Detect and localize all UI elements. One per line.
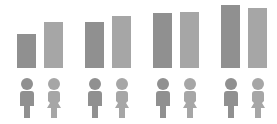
female-person-icon — [180, 78, 200, 118]
bar-male-4 — [221, 5, 240, 68]
male-person-icon — [17, 78, 37, 118]
female-person-icon — [44, 78, 64, 118]
bar-male-2 — [85, 22, 104, 68]
bar-female-1 — [44, 22, 63, 68]
bar-female-4 — [248, 8, 267, 68]
bar-female-2 — [112, 16, 131, 68]
bar-female-3 — [180, 12, 199, 68]
male-person-icon — [153, 78, 173, 118]
female-person-icon — [112, 78, 132, 118]
bar-male-3 — [153, 13, 172, 68]
female-person-icon — [248, 78, 268, 118]
male-person-icon — [85, 78, 105, 118]
male-person-icon — [221, 78, 241, 118]
bar-male-1 — [17, 34, 36, 68]
